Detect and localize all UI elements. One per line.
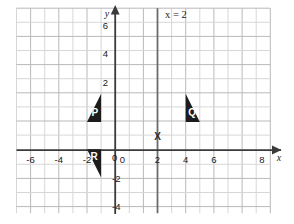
x-axis-label: x xyxy=(276,152,282,163)
y-axis-label: y xyxy=(104,8,110,19)
triangle-q-label: Q xyxy=(188,107,196,118)
coordinate-plane-svg: P Q R -6 -4 -2 0 2 4 6 8 6 4 2 0 -2 -4 x… xyxy=(0,0,294,224)
coordinate-plane-figure: P Q R -6 -4 -2 0 2 4 6 8 6 4 2 0 -2 -4 x… xyxy=(0,0,294,224)
x-tick-labels: -6 -4 -2 0 2 4 6 8 xyxy=(26,154,264,165)
grid-vertical-lines xyxy=(17,8,271,213)
point-x-marker: X xyxy=(154,131,161,142)
x-tick-label: 0 xyxy=(120,154,125,165)
line-equation-label: x = 2 xyxy=(165,9,187,20)
triangle-r-label: R xyxy=(91,151,99,162)
triangle-p-label: P xyxy=(91,107,98,118)
y-tick-label: 4 xyxy=(103,48,108,59)
y-tick-label: 0 xyxy=(112,152,117,163)
grid-lines xyxy=(17,8,271,213)
x-tick-label: -4 xyxy=(55,154,63,165)
x-tick-label: 6 xyxy=(211,154,216,165)
y-tick-label: -4 xyxy=(112,201,120,212)
y-tick-label: 6 xyxy=(103,20,108,31)
x-tick-label: -2 xyxy=(83,154,91,165)
x-tick-label: -6 xyxy=(26,154,34,165)
y-tick-label: -2 xyxy=(112,173,120,184)
y-tick-labels: 6 4 2 0 -2 -4 xyxy=(103,20,121,212)
x-tick-label: 2 xyxy=(155,154,160,165)
x-tick-label: 4 xyxy=(183,154,188,165)
y-tick-label: 2 xyxy=(103,77,108,88)
x-tick-label: 8 xyxy=(259,154,264,165)
y-axis-arrow xyxy=(111,5,120,15)
